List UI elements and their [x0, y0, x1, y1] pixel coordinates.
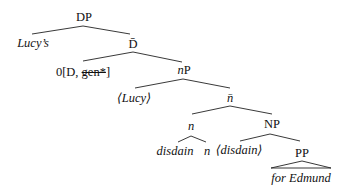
node-np: NP	[264, 118, 280, 131]
struck-gen-feature: gen*	[82, 65, 106, 79]
node-n-head: n	[188, 120, 194, 133]
node-n-leaf: n	[204, 145, 210, 158]
node-lucy-trace: ⟨Lucy⟩	[117, 92, 151, 105]
phrase-p-letter: P	[184, 63, 191, 77]
node-for-edmund: for Edmund	[271, 172, 330, 185]
node-little-np: nP	[177, 64, 190, 77]
tree-branches	[0, 0, 345, 194]
node-null-d-head: 0[D, gen*]	[56, 66, 110, 79]
node-pp: PP	[295, 147, 309, 160]
node-lucys: Lucy’s	[17, 37, 49, 50]
null-head-suffix: ]	[106, 65, 110, 79]
node-disdain-trace: ⟨disdain⟩	[216, 144, 263, 157]
node-d-bar: D̄	[128, 38, 137, 51]
node-n-bar: n̄	[227, 92, 233, 105]
null-head-prefix: 0[D,	[56, 65, 82, 79]
node-dp: DP	[76, 11, 92, 24]
node-disdain: disdain	[157, 145, 194, 158]
